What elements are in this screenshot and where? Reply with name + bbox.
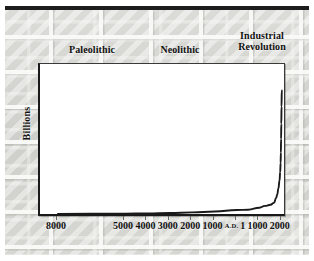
x-axis-tickmark-0 bbox=[56, 216, 57, 220]
plot-area bbox=[38, 63, 285, 216]
population-curve-svg bbox=[40, 64, 284, 214]
era-label-industrial-line1: Industrial bbox=[217, 30, 307, 41]
x-axis-tick-labels: 800050004000300020001000A.D. 110002000 bbox=[5, 216, 309, 238]
x-axis-tick-0: 8000 bbox=[31, 220, 81, 231]
population-curve-path bbox=[58, 90, 282, 214]
top-border-bar bbox=[5, 6, 309, 10]
x-axis-tick-8: 2000 bbox=[255, 220, 305, 231]
x-axis-tickmark-8 bbox=[280, 216, 281, 220]
population-growth-figure: Paleolithic Neolithic Industrial Revolut… bbox=[5, 6, 309, 255]
era-label-industrial-line2: Revolution bbox=[217, 41, 307, 52]
era-label-industrial-revolution: Industrial Revolution bbox=[217, 30, 307, 52]
